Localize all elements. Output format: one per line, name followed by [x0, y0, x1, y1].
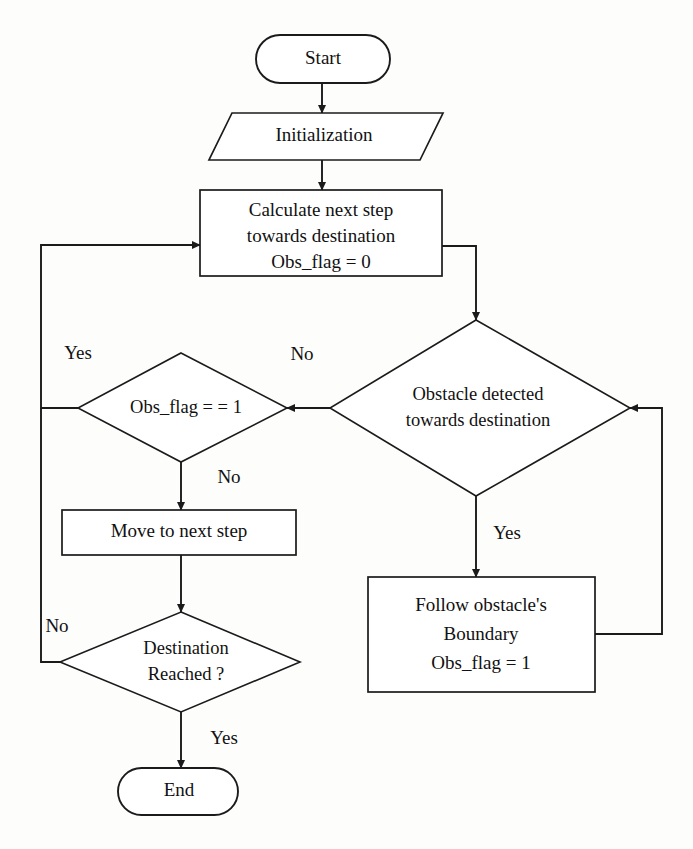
node-start[interactable]: Start [256, 35, 390, 83]
edge-label-obsflag-yes: Yes [64, 342, 92, 363]
edge-label-obstacle-yes: Yes [493, 522, 521, 543]
connector-follow-boundary-loop-to-obstacle [595, 408, 662, 634]
node-layer: Start Initialization Calculate next step… [60, 35, 630, 815]
destination-reached-label-line2: Reached ? [148, 664, 225, 684]
calculate-label-line3: Obs_flag = 0 [271, 251, 370, 272]
destination-reached-shape [60, 612, 300, 712]
obstacle-detected-shape [330, 320, 630, 496]
flowchart-canvas: Start Initialization Calculate next step… [0, 0, 693, 849]
obsflag-check-label: Obs_flag = = 1 [130, 397, 242, 417]
node-calculate-next-step[interactable]: Calculate next step towards destination … [200, 190, 442, 276]
node-obstacle-detected[interactable]: Obstacle detected towards destination [330, 320, 630, 496]
edge-label-obstacle-no: No [290, 343, 313, 364]
start-label: Start [305, 47, 342, 68]
node-move-to-next-step[interactable]: Move to next step [62, 510, 296, 555]
flowchart-diagram: Start Initialization Calculate next step… [0, 0, 693, 849]
node-initialization[interactable]: Initialization [209, 113, 443, 160]
initialization-label: Initialization [275, 124, 373, 145]
connector-calculate-to-obstacle [442, 246, 476, 320]
edge-label-destination-yes: Yes [210, 727, 238, 748]
node-follow-boundary[interactable]: Follow obstacle's Boundary Obs_flag = 1 [368, 577, 595, 692]
obstacle-detected-label-line2: towards destination [406, 410, 550, 430]
obstacle-detected-label-line1: Obstacle detected [413, 384, 545, 404]
calculate-label-line2: towards destination [247, 225, 396, 246]
move-next-label: Move to next step [111, 520, 248, 541]
follow-boundary-label-line3: Obs_flag = 1 [431, 652, 530, 673]
follow-boundary-label-line1: Follow obstacle's [415, 594, 547, 615]
node-obsflag-check[interactable]: Obs_flag = = 1 [78, 353, 287, 462]
edge-label-obsflag-no: No [217, 466, 240, 487]
end-label: End [164, 779, 195, 800]
follow-boundary-label-line2: Boundary [444, 623, 519, 644]
calculate-label-line1: Calculate next step [249, 199, 394, 220]
node-end[interactable]: End [118, 768, 238, 815]
destination-reached-label-line1: Destination [143, 638, 228, 658]
edge-label-destination-no: No [45, 615, 68, 636]
node-destination-reached[interactable]: Destination Reached ? [60, 612, 300, 712]
